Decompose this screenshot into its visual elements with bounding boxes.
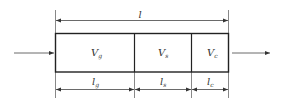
length-label-s: ls: [160, 76, 166, 88]
segment-box: [56, 34, 229, 73]
segment-diagram: l Vg Vs Vc lg ls lc: [0, 0, 281, 108]
length-label-c: lc: [207, 76, 214, 88]
total-length-label: l: [138, 9, 141, 20]
length-label-g: lg: [92, 76, 99, 89]
